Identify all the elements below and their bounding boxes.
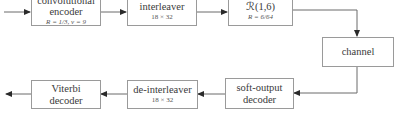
encoder-params: R = 1/3, ν = 9 <box>46 19 86 26</box>
interleaver-size: 18 × 32 <box>151 14 172 21</box>
viterbi-decoder-block: Viterbi decoder <box>31 80 101 109</box>
reed-muller-code-block: ℛ(1,6) R = 6/64 <box>228 0 293 26</box>
deinterleaver-size: 18 × 32 <box>152 97 173 104</box>
viterbi-label-line2: decoder <box>49 95 82 106</box>
deinterleaver-label: de-interleaver <box>133 84 191 95</box>
encoder-label-line2: encoder <box>49 6 82 17</box>
interleaver-label: interleaver <box>140 1 185 12</box>
viterbi-label-line1: Viterbi <box>51 83 80 94</box>
rm-code-rate: R = 6/64 <box>248 14 273 21</box>
channel-block: channel <box>322 37 394 67</box>
soft-decoder-label-line2: decoder <box>243 94 276 105</box>
interleaver-block: interleaver 18 × 32 <box>127 0 197 26</box>
soft-output-decoder-block: soft-output decoder <box>225 78 294 109</box>
rm-code-label: ℛ(1,6) <box>246 1 275 12</box>
soft-decoder-label-line1: soft-output <box>236 82 282 93</box>
rm-to-channel-arrow <box>293 10 357 36</box>
channel-to-soft-decoder-arrow <box>294 67 357 93</box>
deinterleaver-block: de-interleaver 18 × 32 <box>127 80 198 109</box>
channel-label: channel <box>342 46 375 57</box>
convolutional-encoder-block: convolutional encoder R = 1/3, ν = 9 <box>31 0 101 26</box>
